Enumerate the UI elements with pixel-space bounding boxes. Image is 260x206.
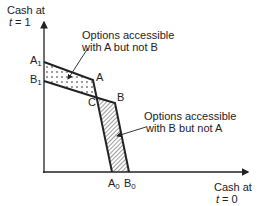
y-axis-label: Cash at t = 1 xyxy=(7,4,45,28)
annotation-b-not-a: Options accessible with B but not A xyxy=(144,110,236,134)
x-axis-label-line2: t = 0 xyxy=(214,193,252,205)
point-label-b0: B0 xyxy=(124,177,136,193)
annotation-a-not-b: Options accessible with A but not B xyxy=(82,29,174,53)
region-a-not-b xyxy=(44,62,98,98)
point-label-a: A xyxy=(96,71,103,83)
point-label-b: B xyxy=(117,91,124,103)
point-label-a0: A0 xyxy=(108,177,120,193)
x-axis-label: Cash at t = 0 xyxy=(214,181,252,205)
point-label-c: C xyxy=(88,96,96,108)
point-label-a1: A1 xyxy=(30,54,42,70)
y-axis-label-line1: Cash at xyxy=(7,4,45,16)
region-b-not-a xyxy=(98,98,129,172)
x-axis-label-line1: Cash at xyxy=(214,181,252,193)
y-axis-label-line2: t = 1 xyxy=(7,16,45,28)
point-label-b1: B1 xyxy=(30,73,42,89)
